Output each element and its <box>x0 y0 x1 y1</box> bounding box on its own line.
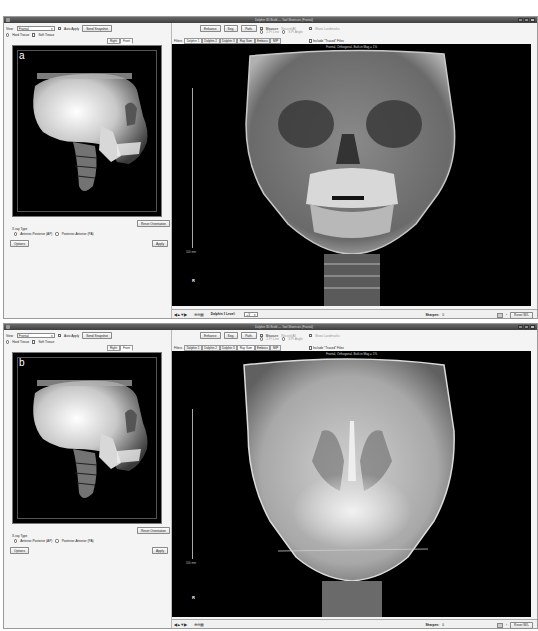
minimize-button[interactable] <box>518 325 523 329</box>
enhance-button[interactable]: Enhance <box>200 332 221 339</box>
orientation-marker: R <box>192 595 195 600</box>
sharpen-slider[interactable] <box>497 623 503 628</box>
options-button[interactable]: Options <box>10 547 29 554</box>
scale-label: 100 mm <box>186 250 196 254</box>
options-button[interactable]: Options <box>10 240 29 247</box>
scale-bar <box>192 409 193 559</box>
sharpen-slider[interactable] <box>497 313 503 318</box>
xray-viewport[interactable]: Frontal, Orthogonal, Built-in Mag = 1% <box>172 44 531 306</box>
show-landmarks-label: Show Landmarks <box>315 27 340 31</box>
ap-radio[interactable] <box>14 539 17 542</box>
soft-tissue-checkbox[interactable] <box>32 33 35 36</box>
include-traced-checkbox[interactable] <box>309 346 312 349</box>
xray-viewport[interactable]: Frontal, Orthogonal, Built-in Mag = 1% <box>172 351 531 617</box>
ap-label: Anterior-Posterior (AP) <box>20 232 52 236</box>
reset-wl-button[interactable]: Reset W/L <box>510 312 533 319</box>
auto-apply-label: Auto Apply <box>64 334 79 338</box>
apply-button[interactable]: Apply <box>152 240 168 247</box>
sharpen-value: 0 <box>442 623 444 627</box>
app-window-b: Dolphin 3D Build — Tool Shortcuts (Front… <box>3 323 538 629</box>
soft-tissue-label: Soft Tissue <box>38 33 54 37</box>
reset-orientation-button[interactable]: Reset Orientation <box>137 527 170 534</box>
pa-radio[interactable] <box>55 539 58 542</box>
pa-radio[interactable] <box>55 232 58 235</box>
sharpen-value: 0 <box>442 313 444 317</box>
scale-bar <box>192 88 193 248</box>
hard-tissue-label: Hard Tissue <box>12 340 29 344</box>
line-option-radio[interactable] <box>260 337 263 340</box>
sharpen-step-right[interactable]: › <box>506 313 507 317</box>
send-snapshot-button[interactable]: Send Snapshot <box>82 332 112 339</box>
view-label: View: <box>6 334 14 338</box>
maximize-button[interactable] <box>524 18 529 22</box>
auto-apply-checkbox[interactable] <box>58 27 61 30</box>
pan-arrows-icon[interactable]: ◀▲▼▶ <box>174 312 187 317</box>
angle-option-radio[interactable] <box>282 337 285 340</box>
app-icon <box>6 325 10 329</box>
apply-button[interactable]: Apply <box>152 547 168 554</box>
path-button[interactable]: Path. <box>241 332 256 339</box>
seg-button[interactable]: Seg. <box>224 25 239 32</box>
close-button[interactable] <box>530 325 535 329</box>
scale-label: 100 mm <box>186 561 196 565</box>
auto-apply-checkbox[interactable] <box>58 334 61 337</box>
reset-orientation-button[interactable]: Reset Orientation <box>137 220 170 227</box>
tab-right[interactable]: Right <box>107 38 120 44</box>
close-button[interactable] <box>530 18 535 22</box>
3d-render-viewport[interactable]: a <box>12 45 162 217</box>
reset-wl-button[interactable]: Reset W/L <box>510 622 533 629</box>
include-traced-label: Include "Traced" Files <box>313 346 344 350</box>
orientation-marker: R <box>192 278 195 283</box>
window-controls <box>518 18 535 22</box>
pa-label: Posterior-Anterior (PA) <box>62 232 94 236</box>
tab-front[interactable]: Front <box>120 345 133 351</box>
hard-tissue-label: Hard Tissue <box>12 33 29 37</box>
minimize-button[interactable] <box>518 18 523 22</box>
line-option-radio[interactable] <box>260 30 263 33</box>
app-window-a: Dolphin 3D Build — Tool Shortcuts (Front… <box>3 16 538 319</box>
app-icon <box>6 18 10 22</box>
zoom-tools-icon[interactable]: ⊕⊖▦ <box>194 622 204 627</box>
ap-radio[interactable] <box>14 232 17 235</box>
send-snapshot-button[interactable]: Send Snapshot <box>82 25 112 32</box>
maximize-button[interactable] <box>524 325 529 329</box>
pan-arrows-icon[interactable]: ◀▲▼▶ <box>174 622 187 627</box>
angle-option-label: 3-Pt Angle <box>288 30 303 34</box>
sharpen-label: Sharpen: <box>425 623 439 627</box>
line-option-label: 2-Pt Line <box>266 30 279 34</box>
filters-label: Filters <box>174 346 182 350</box>
zoom-tools-icon[interactable]: ⊕⊖▦ <box>194 312 204 317</box>
show-landmarks-checkbox[interactable] <box>309 334 312 337</box>
frontal-ceph-dolphin-filter <box>172 44 531 306</box>
tab-right[interactable]: Right <box>107 345 120 351</box>
filters-label: Filters <box>174 39 182 43</box>
sharpen-step-right[interactable]: › <box>506 623 507 627</box>
enhance-button[interactable]: Enhance <box>200 25 221 32</box>
bottom-toolbar: ◀▲▼▶ ⊕⊖▦ Sharpen: 0 › Reset W/L <box>172 619 537 628</box>
angle-option-radio[interactable] <box>282 30 285 33</box>
filter-level-select[interactable]: +3 <box>244 312 258 317</box>
3d-render-viewport[interactable]: b <box>12 352 162 524</box>
show-landmarks-label: Show Landmarks <box>315 334 340 338</box>
seg-button[interactable]: Seg. <box>224 332 239 339</box>
left-panel: View: Frontal Auto Apply Send Snapshot H… <box>4 23 171 318</box>
pa-label: Posterior-Anterior (PA) <box>62 539 94 543</box>
xray-type-label: X-ray Type <box>12 534 27 538</box>
hard-tissue-radio[interactable] <box>6 33 9 36</box>
path-button[interactable]: Path. <box>241 25 256 32</box>
tab-front[interactable]: Front <box>120 38 133 44</box>
view-tabs: Right Front <box>107 38 133 44</box>
include-traced-label: Include "Traced" Files <box>313 39 344 43</box>
ap-label: Anterior-Posterior (AP) <box>20 539 52 543</box>
show-landmarks-checkbox[interactable] <box>309 27 312 30</box>
include-traced-checkbox[interactable] <box>309 39 312 42</box>
view-select[interactable]: Frontal <box>17 333 55 338</box>
line-option-label: 2-Pt Line <box>266 337 279 341</box>
lateral-skull-render <box>13 353 162 524</box>
view-select[interactable]: Frontal <box>17 26 55 31</box>
soft-tissue-label: Soft Tissue <box>38 340 54 344</box>
lateral-skull-render <box>13 46 162 217</box>
soft-tissue-checkbox[interactable] <box>32 340 35 343</box>
hard-tissue-radio[interactable] <box>6 340 9 343</box>
angle-option-label: 3-Pt Angle <box>288 337 303 341</box>
